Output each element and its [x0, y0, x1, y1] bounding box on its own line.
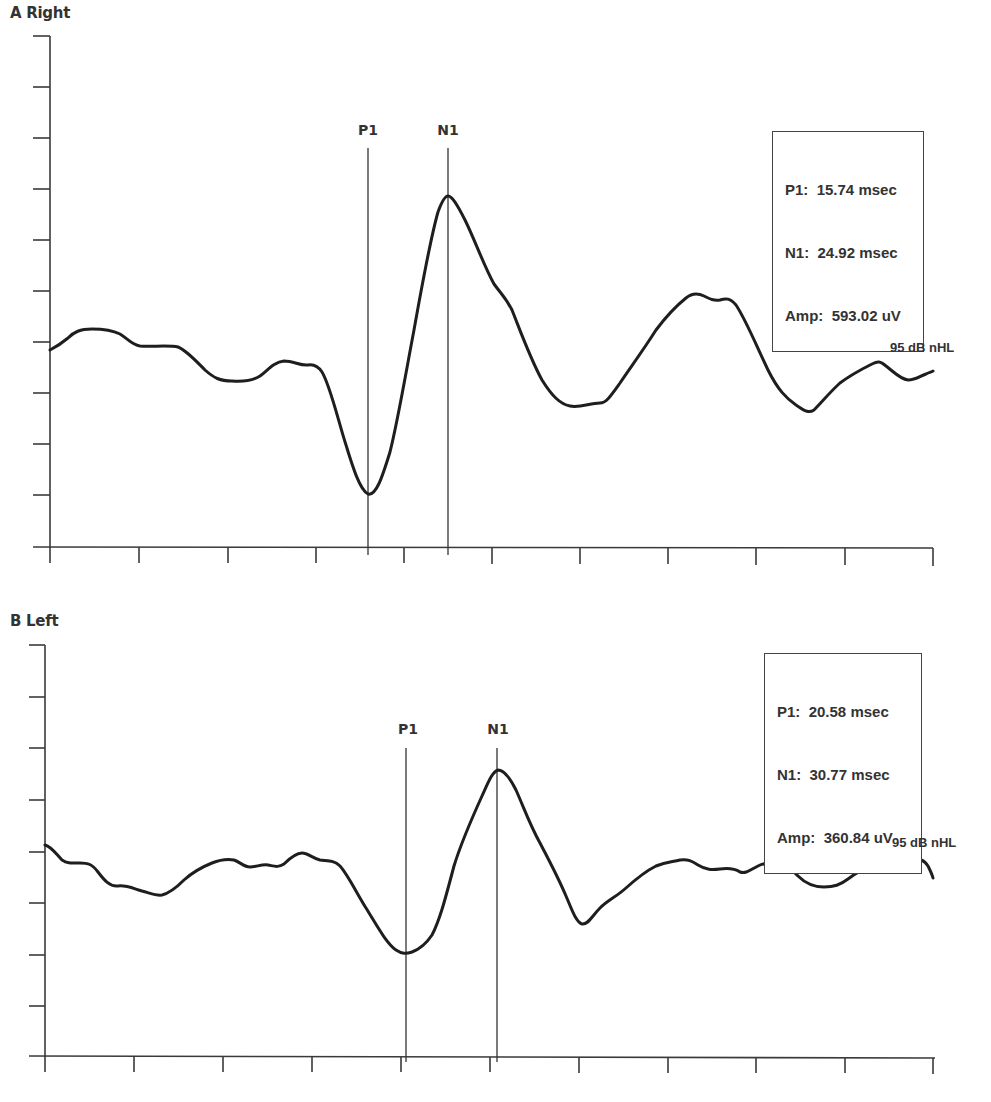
- panel-a-info-box: P1: 15.74 msec N1: 24.92 msec Amp: 593.0…: [772, 131, 924, 352]
- panel-b-p1-latency: P1: 20.58 msec: [777, 701, 911, 722]
- panel-a-p1-label: P1: [358, 122, 378, 138]
- panel-a-n1-label: N1: [437, 122, 458, 138]
- panel-a-n1-latency: N1: 24.92 msec: [785, 242, 913, 263]
- panel-b-n1-label: N1: [487, 721, 508, 737]
- panel-b-title: B Left: [10, 612, 58, 630]
- panel-a-amplitude: Amp: 593.02 uV: [785, 305, 913, 326]
- panel-a-x-ticks: [50, 547, 933, 566]
- panel-a-p1-latency: P1: 15.74 msec: [785, 179, 913, 200]
- panel-b-p1-label: P1: [398, 721, 418, 737]
- panel-b-n1-latency: N1: 30.77 msec: [777, 764, 911, 785]
- panel-b-y-ticks: [29, 645, 45, 1006]
- panel-a-level-label: 95 dB nHL: [890, 340, 954, 355]
- panel-b-amplitude: Amp: 360.84 uV: [777, 827, 911, 848]
- panel-b-level-label: 95 dB nHL: [892, 835, 956, 850]
- panel-b-x-ticks: [45, 1056, 933, 1074]
- panel-a-y-ticks: [33, 36, 50, 495]
